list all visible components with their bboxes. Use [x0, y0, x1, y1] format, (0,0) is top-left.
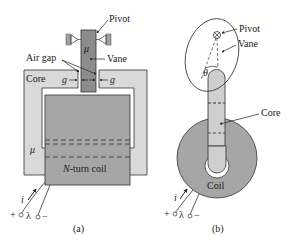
panel-a: Pivot μ Vane Air gap Core g g μ N-turn c…: [10, 13, 147, 235]
coil-label-a: N-turn coil: [62, 163, 107, 174]
core-label-a: Core: [26, 73, 46, 84]
vane-leader-b: [222, 45, 236, 52]
vane-a: [81, 30, 96, 92]
coil-label-b: Coil: [207, 180, 224, 191]
pivot-support-left: [66, 34, 81, 45]
minus-label-b: −: [194, 210, 200, 221]
terminal-plus-b: [173, 212, 177, 216]
lead-plus-a: [21, 182, 45, 214]
panel-b: θ Pivot Vane Core Coil i + λ − (b): [164, 13, 281, 235]
gap-right-label: g: [110, 74, 115, 85]
current-label-a: i: [21, 194, 24, 205]
pivot-leader-a: [97, 20, 108, 33]
pivot-label-a: Pivot: [109, 13, 130, 24]
vane-label-b: Vane: [238, 38, 259, 49]
lambda-label-b: λ: [179, 209, 184, 220]
current-label-b: i: [174, 192, 177, 203]
core-label-b: Core: [261, 107, 281, 118]
minus-label-a: −: [42, 211, 48, 222]
core-arm-b: [208, 70, 225, 147]
figure-canvas: Pivot μ Vane Air gap Core g g μ N-turn c…: [0, 0, 294, 246]
vane-label-a: Vane: [107, 53, 128, 64]
gap-left-label: g: [62, 74, 67, 85]
air-gap-label: Air gap: [26, 52, 56, 63]
terminal-plus-a: [19, 213, 23, 217]
plus-label-b: +: [164, 208, 170, 219]
theta-label: θ: [203, 67, 208, 78]
caption-a: (a): [73, 223, 84, 235]
plus-label-a: +: [10, 209, 16, 220]
vane-mu-label: μ: [83, 43, 89, 54]
lambda-label-a: λ: [26, 210, 31, 221]
caption-b: (b): [212, 223, 224, 235]
current-arrow-b: [180, 189, 187, 199]
core-mu-label: μ: [29, 144, 35, 155]
pivot-support-right: [96, 34, 111, 45]
pivot-label-b: Pivot: [239, 23, 260, 34]
terminal-minus-a: [36, 215, 40, 219]
terminal-minus-b: [188, 214, 192, 218]
core-hole-inner: [208, 146, 226, 173]
vertical-axis-b: [217, 38, 218, 68]
